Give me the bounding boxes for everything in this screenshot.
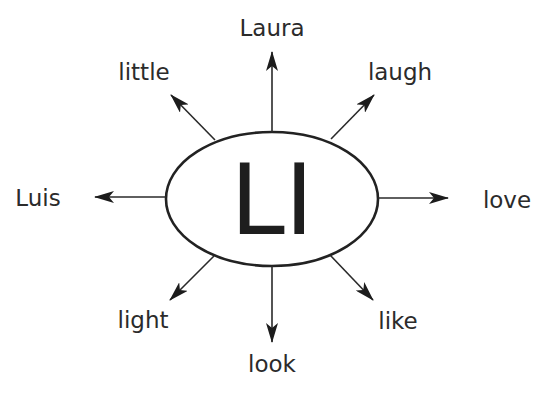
arrow-down-right	[330, 255, 373, 300]
arrow-down-left	[170, 256, 214, 300]
word-laura: Laura	[239, 15, 304, 41]
arrow-up-left	[171, 95, 215, 140]
word-light: light	[118, 307, 169, 333]
word-laugh: laugh	[368, 59, 432, 85]
center-label: LI	[230, 143, 314, 257]
word-little: little	[118, 59, 169, 85]
arrow-up-right	[331, 95, 374, 139]
word-like: like	[378, 308, 417, 334]
word-love: love	[483, 187, 531, 213]
word-luis: Luis	[15, 185, 60, 211]
word-look: look	[248, 351, 297, 377]
word-web-diagram: LI Laura laugh love like look light Luis…	[0, 0, 544, 396]
